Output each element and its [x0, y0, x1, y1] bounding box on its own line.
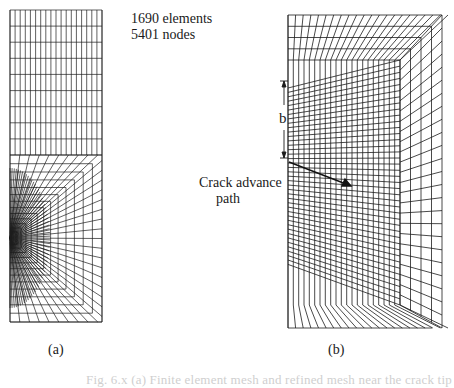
node-count-label: 5401 nodes — [131, 27, 195, 43]
panel-b-label: (b) — [328, 342, 344, 358]
element-count-label: 1690 elements — [131, 11, 212, 27]
figure-caption: Fig. 6.x (a) Finite element mesh and ref… — [86, 372, 452, 388]
panel-a-label: (a) — [48, 342, 64, 358]
mesh-panel-a — [10, 10, 102, 322]
crack-path-label: path — [216, 191, 240, 207]
crack-advance-label: Crack advance — [199, 175, 282, 191]
dimension-b-label: b — [279, 110, 287, 126]
